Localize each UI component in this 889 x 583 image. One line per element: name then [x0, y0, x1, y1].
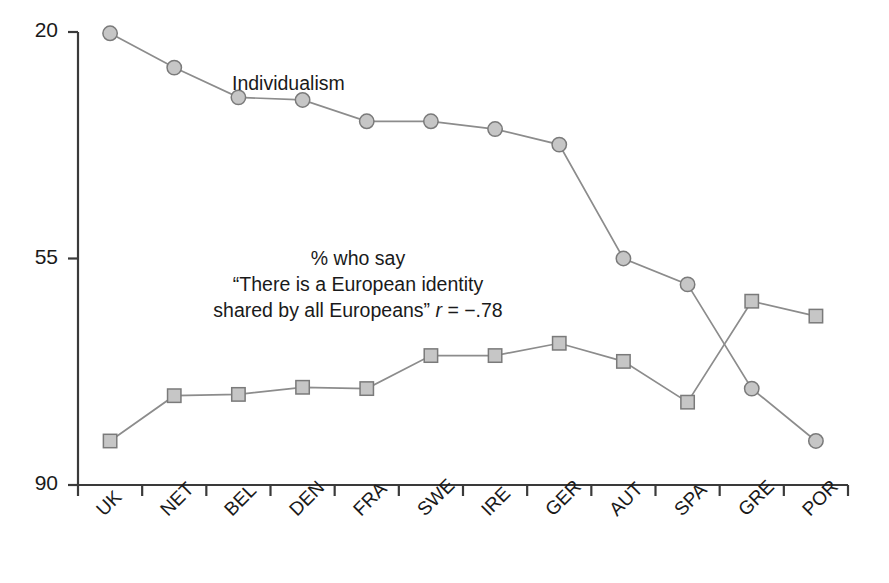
data-point-marker	[424, 349, 437, 362]
european-identity-annotation: % who say “There is a European identity …	[148, 245, 568, 323]
y-axis-tick-label: 55	[10, 245, 58, 269]
data-point-marker	[681, 395, 694, 408]
data-point-marker	[745, 381, 759, 395]
data-point-marker	[424, 114, 438, 128]
data-point-marker	[552, 137, 566, 151]
data-point-marker	[360, 382, 373, 395]
data-series-layer	[103, 26, 823, 448]
data-point-marker	[232, 388, 245, 401]
chart-container: 905520 UKNETBELDENFRASWEIREGERAUTSPAGREP…	[0, 0, 889, 583]
correlation-value: = −.78	[442, 299, 503, 321]
data-point-marker	[809, 434, 823, 448]
data-point-marker	[809, 309, 822, 322]
data-point-marker	[103, 434, 116, 447]
series-line	[110, 33, 816, 441]
individualism-series-label: Individualism	[232, 72, 345, 95]
data-point-marker	[680, 277, 694, 291]
data-point-marker	[360, 114, 374, 128]
annotation-line-1: % who say	[148, 245, 568, 271]
data-point-marker	[167, 60, 181, 74]
data-point-marker	[488, 122, 502, 136]
series-individualism	[103, 26, 823, 448]
annotation-line-3-text: shared by all Europeans”	[213, 299, 430, 321]
data-point-marker	[617, 355, 630, 368]
y-axis-ticks	[68, 32, 78, 485]
data-point-marker	[616, 251, 630, 265]
data-point-marker	[745, 295, 758, 308]
y-axis-tick-label: 90	[10, 471, 58, 495]
data-point-marker	[488, 349, 501, 362]
data-point-marker	[168, 389, 181, 402]
data-point-marker	[296, 381, 309, 394]
y-axis-tick-label: 20	[10, 18, 58, 42]
annotation-line-2: “There is a European identity	[148, 271, 568, 297]
data-point-marker	[553, 337, 566, 350]
data-point-marker	[103, 26, 117, 40]
annotation-line-3: shared by all Europeans” r = −.78	[148, 297, 568, 323]
